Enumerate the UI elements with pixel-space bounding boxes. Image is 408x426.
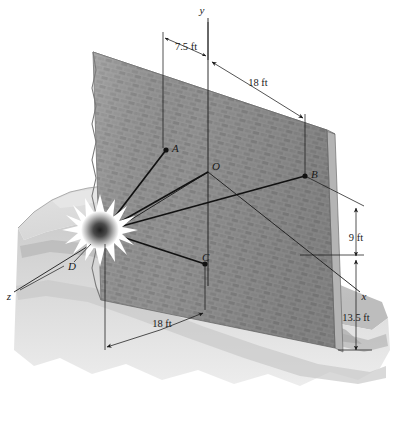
z-axis-label: z: [6, 290, 12, 302]
wall-face-shading: [93, 52, 335, 348]
dimension-9ft-label: 9 ft: [349, 232, 363, 243]
point-a-label: A: [171, 142, 179, 154]
point-b-label: B: [311, 168, 318, 180]
point-b-dot: [302, 173, 307, 178]
dimension-18ft-top-label: 18 ft: [248, 77, 268, 88]
x-axis-label: x: [361, 290, 367, 302]
dimension-18ft-bottom-label: 18 ft: [152, 318, 172, 329]
point-a-dot: [163, 147, 168, 152]
y-axis-label: y: [199, 4, 205, 16]
dimension-7-5ft-label: 7.5 ft: [175, 41, 197, 52]
point-c-label: C: [202, 251, 210, 263]
dimension-13-5ft-label: 13.5 ft: [342, 312, 369, 323]
figure-canvas: y x z A O B C D 7.5 ft 18 ft: [0, 0, 408, 426]
blast-wall-diagram: y x z A O B C D 7.5 ft 18 ft: [0, 0, 408, 426]
blast-core: [81, 211, 119, 249]
point-o-label: O: [212, 160, 220, 172]
